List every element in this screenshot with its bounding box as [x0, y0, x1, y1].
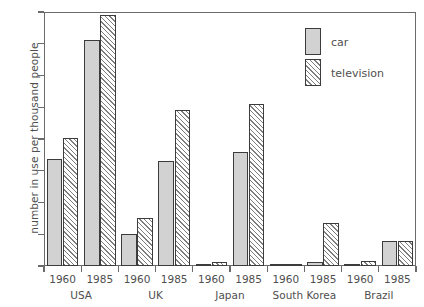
bar-usa-1960-television — [63, 138, 79, 266]
x-tick-mark — [43, 266, 44, 272]
bar-brazil-1960-television — [361, 261, 377, 266]
bar-japan-1985-car — [233, 152, 249, 266]
bar-brazil-1985-television — [398, 241, 414, 266]
cropped-title — [0, 0, 424, 5]
bar-usa-1985-car — [84, 40, 100, 266]
bars-layer — [44, 12, 416, 266]
bar-usa-1985-television — [100, 15, 116, 266]
bar-brazil-1960-car — [344, 264, 360, 266]
x-tick-mark — [155, 266, 156, 272]
x-tick-mark — [415, 266, 416, 272]
bar-usa-1960-car — [47, 159, 63, 266]
bar-uk-1960-car — [121, 234, 137, 266]
legend-swatch-car-icon — [305, 28, 321, 55]
x-tick-mark — [192, 266, 193, 272]
group-label-brazil: Brazil — [334, 289, 424, 301]
year-label-9: 1985 — [367, 273, 424, 285]
bar-uk-1985-television — [175, 110, 191, 266]
bar-south-korea-1960-car — [270, 264, 286, 266]
bar-chart: number in use per thousand people 010020… — [0, 0, 424, 307]
x-tick-mark — [267, 266, 268, 272]
x-tick-mark — [304, 266, 305, 272]
bar-south-korea-1985-television — [323, 223, 339, 266]
x-tick-mark — [81, 266, 82, 272]
legend-label-television: television — [331, 67, 384, 80]
legend-label-car: car — [331, 36, 348, 49]
bar-japan-1960-television — [212, 262, 228, 266]
bar-uk-1960-television — [137, 218, 153, 266]
bar-brazil-1985-car — [382, 241, 398, 266]
bar-japan-1960-car — [196, 264, 212, 266]
x-tick-mark — [118, 266, 119, 272]
bar-south-korea-1985-car — [307, 262, 323, 266]
bar-japan-1985-television — [249, 104, 265, 266]
legend-swatch-television-icon — [305, 59, 321, 86]
bar-south-korea-1960-television — [286, 264, 302, 266]
x-tick-mark — [341, 266, 342, 272]
bar-uk-1985-car — [158, 161, 174, 266]
x-tick-mark — [378, 266, 379, 272]
x-tick-mark — [229, 266, 230, 272]
